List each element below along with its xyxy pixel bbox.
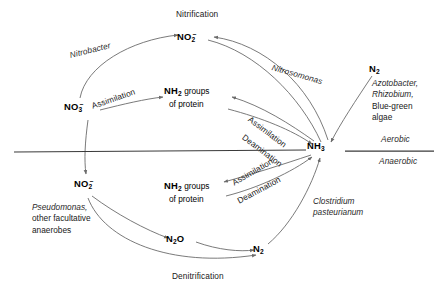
label-nitrification: Nitrification bbox=[176, 9, 218, 20]
label-denitrification: Denitrification bbox=[172, 271, 224, 282]
arc-n2-fixation-to-ammonia bbox=[331, 76, 372, 142]
node-nitrate: NO3− bbox=[64, 101, 84, 113]
node-nh2-groups-upper: NH2 groups of protein bbox=[164, 85, 210, 109]
nitrogen-fixer-item: Azotobacter, bbox=[372, 78, 418, 89]
node-nh2-groups-lower: NH2 groups of protein bbox=[164, 180, 210, 204]
node-dinitrogen-bottom: N2 bbox=[253, 243, 264, 255]
label-anaerobic: Anaerobic bbox=[379, 156, 417, 167]
node-nh2-groups-upper-line2: of protein bbox=[169, 99, 210, 109]
node-nitrite-top: NO2− bbox=[177, 31, 197, 43]
nitrogen-fixers-list: Azotobacter, Rhizobium, Blue-green algae bbox=[372, 78, 418, 124]
label-clostridium-line1: Clostridium bbox=[313, 196, 363, 207]
arc-nitrous-oxide-to-dinitrogen bbox=[196, 242, 254, 251]
label-clostridium-line2: pasteurianum bbox=[313, 207, 363, 218]
denitrifier-item: anaerobes bbox=[32, 225, 91, 236]
nitrogen-fixer-item: Blue-green bbox=[372, 101, 418, 112]
node-ammonia: NH3 bbox=[307, 140, 325, 152]
label-clostridium-pasteurianum: Clostridium pasteurianum bbox=[313, 196, 363, 219]
denitrifiers-list: Pseudomonas, other facultative anaerobes bbox=[32, 202, 91, 236]
diagram-canvas bbox=[0, 0, 437, 290]
arc-nitrite-to-nitrous-oxide bbox=[92, 196, 168, 238]
node-nitrous-oxide: N2O bbox=[166, 233, 184, 245]
nitrogen-fixer-item: algae bbox=[372, 112, 418, 123]
arc-denitrification-nitrite-to-dinitrogen bbox=[88, 198, 256, 258]
nitrogen-cycle-diagram: NO2− NO3− NH2 groups of protein NH3 N2 N… bbox=[0, 0, 437, 290]
arrow-nitrate-to-nitrite-bottom bbox=[85, 120, 88, 174]
denitrifier-item: Pseudomonas, bbox=[32, 202, 91, 213]
denitrifier-item: other facultative bbox=[32, 213, 91, 224]
node-dinitrogen-top: N2 bbox=[369, 63, 380, 75]
node-nitrite-bottom: NO2− bbox=[74, 178, 94, 190]
nitrogen-fixer-item: Rhizobium, bbox=[372, 89, 418, 100]
node-nh2-groups-lower-line2: of protein bbox=[169, 194, 210, 204]
label-aerobic: Aerobic bbox=[381, 134, 410, 145]
arc-nitrite-top-to-ammonia bbox=[214, 37, 328, 140]
